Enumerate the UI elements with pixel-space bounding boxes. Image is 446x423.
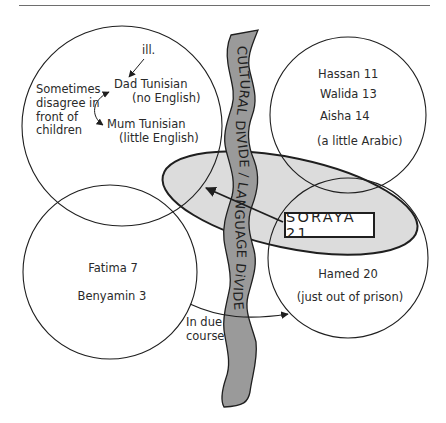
- child-benyamin: Benyamin 3: [78, 290, 147, 303]
- sibling-walida: Walida 13: [320, 88, 377, 101]
- in-due-course-line-1: In due: [186, 316, 222, 329]
- dad-label: Dad Tunisian: [114, 78, 187, 91]
- sibling-hassan: Hassan 11: [318, 68, 378, 81]
- in-due-course-line-2: course: [186, 330, 224, 343]
- diagram-canvas: CULTURAL DIVIDE / LANGUAGE DiVIDE: [0, 0, 446, 423]
- dad-note: (no English): [132, 92, 200, 105]
- mum-note: (little English): [119, 132, 199, 145]
- disagree-note-line-2: disagree in: [36, 97, 100, 110]
- soraya-label: SORAYA 21: [286, 209, 373, 241]
- ill-label: ill.: [142, 44, 155, 57]
- brother-hamed: Hamed 20: [318, 268, 378, 281]
- disagree-note-line-4: children: [36, 124, 82, 137]
- child-fatima: Fatima 7: [88, 262, 138, 275]
- sibling-aisha: Aisha 14: [320, 110, 370, 123]
- siblings-language-note: (a little Arabic): [317, 135, 402, 148]
- ill-arrow: [129, 59, 144, 77]
- brother-note: (just out of prison): [297, 291, 403, 304]
- ecomap-diagram: CULTURAL DIVIDE / LANGUAGE DiVIDE ill. D…: [0, 0, 446, 423]
- disagree-note-line-1: Sometimes: [36, 83, 101, 96]
- mum-label: Mum Tunisian: [107, 118, 186, 131]
- soraya-focus-box: SORAYA 21: [284, 212, 375, 238]
